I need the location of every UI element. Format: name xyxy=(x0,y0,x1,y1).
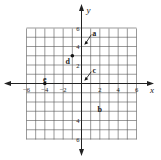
point-label-e: e xyxy=(43,75,47,84)
x-tick-label: −2 xyxy=(60,86,67,93)
arrow-left-icon xyxy=(4,81,11,86)
x-tick-label: 4 xyxy=(117,86,121,93)
point-d xyxy=(71,54,75,58)
x-tick-label: −6 xyxy=(23,86,31,93)
point-label-a: a xyxy=(92,29,96,38)
x-tick-label: 2 xyxy=(98,86,101,93)
point-label-b: b xyxy=(98,105,103,114)
coordinate-plane: xy −6−4−224664246 abcde xyxy=(0,0,161,160)
arrowhead-a-icon xyxy=(84,41,88,45)
arrowhead-c-icon xyxy=(84,77,88,81)
y-tick-label: 2 xyxy=(76,62,79,69)
arrow-down-icon xyxy=(79,149,84,156)
x-tick-label: −4 xyxy=(41,86,49,93)
x-tick-label: 6 xyxy=(135,86,139,93)
arrow-up-icon xyxy=(79,4,84,11)
y-axis-label: y xyxy=(86,5,91,15)
points: abcde xyxy=(43,29,103,115)
point-label-c: c xyxy=(93,66,97,75)
point-label-d: d xyxy=(66,57,71,66)
x-axis-label: x xyxy=(149,85,154,95)
